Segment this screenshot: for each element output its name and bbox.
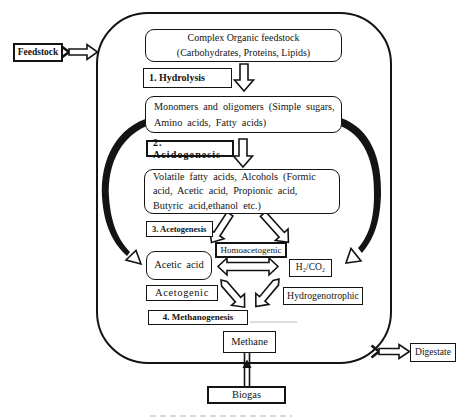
- monomers-line1: Monomers and oligomers (Simple sugars,: [154, 99, 335, 115]
- feedstock-box: Feedstock: [13, 43, 63, 62]
- hydrogenotrophic-box: Hydrogenotrophic: [283, 287, 363, 305]
- vfa-line3: Butyric acid,ethanol etc.): [153, 199, 261, 213]
- h2co2-label: H₂/CO₂: [296, 262, 325, 273]
- acetogenic-box: Acetogenic: [146, 285, 218, 301]
- acetic-acid-label: Acetic acid: [154, 259, 204, 272]
- complex-feedstock-line2: (Carbohydrates, Proteins, Lipids): [177, 46, 310, 61]
- vfa-box: Volatile fatty acids, Alcohols (Formic a…: [144, 169, 340, 214]
- stage-hydrolysis-box: 1. Hydrolysis: [143, 68, 232, 88]
- stage-hydrolysis-label: 1. Hydrolysis: [149, 72, 205, 84]
- monomers-line2: Amino acids, Fatty acids): [154, 115, 266, 131]
- stage-acetogenesis-label: 3. Acetogenesis: [152, 224, 206, 234]
- digestate-label: Digestate: [415, 347, 451, 358]
- vfa-line1: Volatile fatty acids, Alcohols (Formic: [153, 170, 316, 184]
- stage-acidogenesis-label: 2. Acidogenesis: [153, 137, 232, 161]
- stage-acidogenesis-box: 2. Acidogenesis: [146, 140, 234, 157]
- feedstock-label: Feedstock: [18, 47, 59, 58]
- vfa-line2: acid, Acetic acid, Propionic acid,: [153, 184, 297, 198]
- hydrogenotrophic-label: Hydrogenotrophic: [287, 290, 359, 302]
- monomers-box: Monomers and oligomers (Simple sugars, A…: [145, 96, 342, 133]
- digestate-box: Digestate: [410, 343, 456, 362]
- methane-box: Methane: [223, 331, 276, 353]
- complex-feedstock-line1: Complex Organic feedstock: [187, 31, 299, 46]
- homoacetogenic-box: Homoacetogenic: [215, 242, 287, 258]
- biogas-label: Biogas: [232, 389, 261, 402]
- biogas-box: Biogas: [207, 386, 286, 404]
- stage-methanogenesis-label: 4. Methanogenesis: [163, 312, 234, 323]
- complex-feedstock-box: Complex Organic feedstock (Carbohydrates…: [145, 29, 342, 62]
- h2co2-box: H₂/CO₂: [289, 259, 332, 277]
- stage-acetogenesis-box: 3. Acetogenesis: [146, 221, 213, 237]
- acetogenic-label: Acetogenic: [155, 287, 209, 300]
- homoacetogenic-label: Homoacetogenic: [221, 245, 282, 256]
- anaerobic-digestion-diagram: Feedstock Complex Organic feedstock (Car…: [0, 0, 466, 417]
- methane-label: Methane: [231, 336, 268, 349]
- feedstock-arrow-icon: [61, 45, 98, 60]
- acetic-acid-box: Acetic acid: [146, 251, 212, 280]
- stage-methanogenesis-box: 4. Methanogenesis: [148, 310, 248, 325]
